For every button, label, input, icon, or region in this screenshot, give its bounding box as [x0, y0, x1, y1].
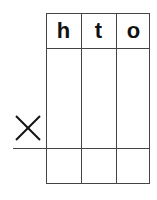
header-tens: t — [81, 13, 116, 48]
header-hundreds: h — [46, 13, 81, 48]
multiply-icon — [15, 115, 41, 141]
header-ones: o — [116, 13, 151, 48]
answer-divider-line — [13, 148, 150, 149]
header-divider — [46, 48, 150, 49]
